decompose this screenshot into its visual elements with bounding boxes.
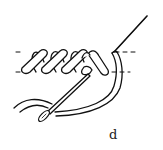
thread-tail	[14, 99, 52, 112]
figure-label: d	[109, 127, 117, 142]
stitch-illustration	[0, 0, 163, 150]
working-thread	[55, 51, 122, 116]
over-stitches	[22, 50, 109, 75]
